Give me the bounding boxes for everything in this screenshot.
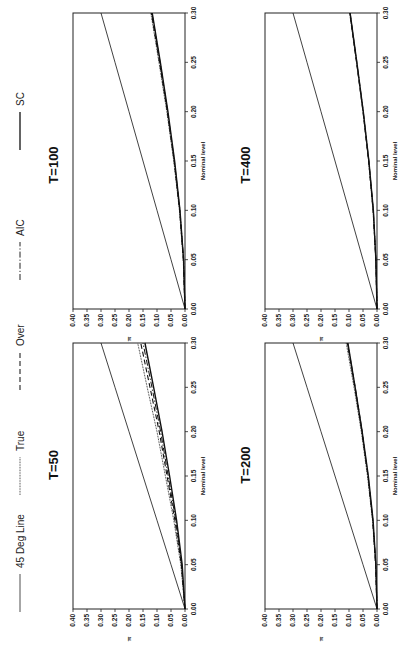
y-axis-label: π [126,336,132,341]
series-line-over [151,13,185,309]
plot-frame [73,343,185,609]
panel-title: T=50 [46,450,61,480]
y-tick-label: 0.05 [167,614,174,627]
y-tick-label: 0.10 [153,314,160,327]
y-tick-label: 0.25 [111,614,118,627]
y-tick-label: 0.00 [373,614,380,627]
x-tick-label: 0.30 [382,6,389,19]
x-axis-label: Nominal level [200,141,206,180]
x-axis-label: Nominal level [200,456,206,495]
x-tick-label: 0.30 [190,6,197,19]
y-tick-label: 0.25 [303,614,310,627]
x-tick-label: 0.10 [382,204,389,217]
series-line-true [346,343,377,609]
series-line-over [348,343,377,609]
legend-item-aic: AIC [15,219,26,280]
y-tick-label: 0.35 [83,614,90,627]
series-line-aic [143,343,185,609]
series-line-45-deg-line [101,343,185,609]
series-line-45-deg-line [293,343,377,609]
x-tick-label: 0.20 [190,425,197,438]
x-tick-label: 0.00 [190,602,197,615]
x-axis-label: Nominal level [392,141,398,180]
y-tick-label: 0.40 [69,614,76,627]
rotated-figure: 45 Deg LineTrueOverAICSC T=500.000.050.1… [0,0,410,645]
x-tick-label: 0.25 [382,56,389,69]
x-tick-label: 0.00 [382,302,389,315]
y-tick-label: 0.15 [139,314,146,327]
x-tick-label: 0.15 [382,469,389,482]
x-tick-label: 0.10 [190,514,197,527]
legend-label: True [15,430,26,451]
series-line-sc [350,13,377,309]
y-tick-label: 0.35 [83,314,90,327]
series-line-true [151,13,185,309]
x-tick-label: 0.00 [190,302,197,315]
figure-canvas: 45 Deg LineTrueOverAICSC T=500.000.050.1… [0,0,410,645]
panel-title: T=100 [46,146,61,183]
legend-item-sc: SC [15,92,26,150]
y-axis-label: π [318,636,324,641]
x-tick-label: 0.15 [190,469,197,482]
y-tick-label: 0.20 [125,614,132,627]
series-line-aic [350,13,377,309]
x-tick-label: 0.25 [382,381,389,394]
x-tick-label: 0.05 [190,253,197,266]
x-tick-label: 0.25 [190,381,197,394]
panel-t-200: T=2000.000.050.100.150.200.250.300.350.4… [238,336,398,641]
y-tick-label: 0.15 [139,614,146,627]
panel-t-100: T=1000.000.050.100.150.200.250.300.350.4… [46,6,206,341]
x-tick-label: 0.15 [382,154,389,167]
x-axis-label: Nominal level [392,456,398,495]
legend-item-true: True [15,430,26,495]
x-tick-label: 0.10 [190,204,197,217]
y-tick-label: 0.05 [167,314,174,327]
y-tick-label: 0.25 [303,314,310,327]
x-tick-label: 0.10 [382,514,389,527]
y-tick-label: 0.30 [97,614,104,627]
y-tick-label: 0.40 [261,314,268,327]
panel-title: T=200 [238,446,253,483]
y-tick-label: 0.15 [331,614,338,627]
y-tick-label: 0.10 [345,614,352,627]
legend-label: AIC [15,219,26,236]
y-tick-label: 0.20 [317,614,324,627]
y-tick-label: 0.35 [275,614,282,627]
y-tick-label: 0.25 [111,314,118,327]
panel-t-50: T=500.000.050.100.150.200.250.300.350.40… [46,336,206,641]
x-tick-label: 0.20 [382,425,389,438]
legend: 45 Deg LineTrueOverAICSC [15,92,26,612]
y-axis-label: π [318,336,324,341]
y-tick-label: 0.00 [181,314,188,327]
y-tick-label: 0.30 [289,314,296,327]
y-tick-label: 0.40 [261,614,268,627]
series-line-true [138,343,185,609]
y-tick-label: 0.05 [359,614,366,627]
x-tick-label: 0.20 [382,105,389,118]
y-axis-label: π [126,636,132,641]
y-tick-label: 0.10 [345,314,352,327]
y-tick-label: 0.20 [125,314,132,327]
plot-frame [73,13,185,309]
x-tick-label: 0.30 [382,336,389,349]
y-tick-label: 0.05 [359,314,366,327]
y-tick-label: 0.10 [153,614,160,627]
y-tick-label: 0.30 [289,614,296,627]
series-line-sc [348,343,377,609]
x-tick-label: 0.15 [190,154,197,167]
panel-title: T=400 [238,146,253,183]
legend-label: SC [15,92,26,106]
x-tick-label: 0.25 [190,56,197,69]
x-tick-label: 0.05 [382,558,389,571]
series-line-aic [152,13,185,309]
x-tick-label: 0.00 [382,602,389,615]
x-tick-label: 0.30 [190,336,197,349]
series-line-45-deg-line [293,13,377,309]
series-line-45-deg-line [101,13,185,309]
legend-label: Over [15,324,26,346]
series-line-aic [347,343,377,609]
series-line-over [350,13,377,309]
legend-label: 45 Deg Line [15,514,26,568]
y-tick-label: 0.00 [181,614,188,627]
plot-frame [265,343,377,609]
